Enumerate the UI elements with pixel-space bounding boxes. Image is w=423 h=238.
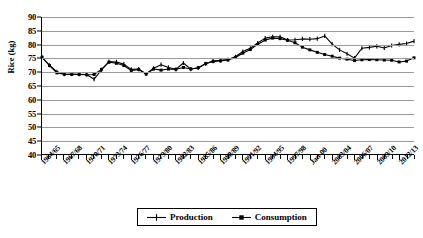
gridline xyxy=(42,58,414,59)
gridline xyxy=(42,17,414,18)
gridline xyxy=(42,114,414,115)
legend-label-consumption: Consumption xyxy=(255,212,307,222)
series-consumption xyxy=(41,37,416,77)
x-tick-mark xyxy=(369,155,370,159)
y-tick-label: 70 xyxy=(28,67,36,77)
legend-item-production: Production xyxy=(147,212,213,222)
gridline xyxy=(42,141,414,142)
y-tick-label: 55 xyxy=(28,109,36,119)
gridline xyxy=(42,127,414,128)
y-tick-label: 45 xyxy=(28,136,36,146)
consumption-marker-icon xyxy=(232,213,251,222)
x-tick-mark xyxy=(302,155,303,159)
rice-production-consumption-chart: Rice (kg) 4045505560657075808590 1964/65… xyxy=(0,0,423,238)
x-tick-mark xyxy=(414,155,415,159)
y-tick-label: 50 xyxy=(28,122,36,132)
y-tick-label: 90 xyxy=(28,12,36,22)
chart-legend: Production Consumption xyxy=(137,208,317,226)
y-tick-label: 60 xyxy=(28,95,36,105)
y-axis: Rice (kg) 4045505560657075808590 xyxy=(0,0,41,172)
x-tick-mark xyxy=(190,155,191,159)
x-tick-mark xyxy=(257,155,258,159)
y-tick-label: 80 xyxy=(28,40,36,50)
y-axis-title: Rice (kg) xyxy=(6,24,16,90)
y-tick-label: 85 xyxy=(28,26,36,36)
x-tick-mark xyxy=(78,155,79,159)
y-tick-label: 75 xyxy=(28,53,36,63)
x-tick-mark xyxy=(123,155,124,159)
legend-label-production: Production xyxy=(170,212,213,222)
y-tick-label: 65 xyxy=(28,81,36,91)
y-tick-label: 40 xyxy=(28,150,36,160)
production-marker-icon xyxy=(147,213,166,222)
gridline xyxy=(42,100,414,101)
plot-area xyxy=(41,17,414,155)
x-axis-labels: 1964/651967/681970/711973/741976/771979/… xyxy=(0,160,423,204)
gridline xyxy=(42,31,414,32)
gridline xyxy=(42,86,414,87)
gridline xyxy=(42,72,414,73)
gridline xyxy=(42,45,414,46)
legend-item-consumption: Consumption xyxy=(232,212,307,222)
